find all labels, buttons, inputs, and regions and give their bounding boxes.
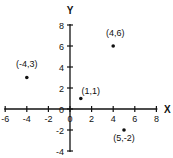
x-tick-label: -2 [44,114,52,124]
y-axis-label: Y [67,5,74,16]
data-point [122,128,126,132]
point-label: (4,6) [106,28,125,38]
y-tick-label: 8 [59,21,64,31]
coordinate-plane: -6-4-224680-4-224680XY(-4,3)(4,6)(1,1)(5… [0,0,173,158]
x-tick-label: 8 [154,114,159,124]
x-tick-label: 0 [67,114,72,124]
y-tick-label: 4 [59,63,64,73]
point-label: (-4,3) [16,59,38,69]
x-tick-label: 2 [89,114,94,124]
y-tick-label: -4 [56,147,64,157]
x-tick-label: -6 [1,114,9,124]
y-tick-label: 2 [59,84,64,94]
y-tick-label: -2 [56,126,64,136]
data-point [79,97,83,101]
x-tick-label: 4 [111,114,116,124]
data-point [25,76,29,80]
point-label: (5,-2) [113,133,135,143]
x-axis-label: X [164,104,171,115]
point-label: (1,1) [82,86,101,96]
x-tick-label: 6 [132,114,137,124]
data-point [111,44,115,48]
y-tick-label: 0 [59,105,64,115]
x-tick-label: -4 [23,114,31,124]
y-tick-label: 6 [59,42,64,52]
